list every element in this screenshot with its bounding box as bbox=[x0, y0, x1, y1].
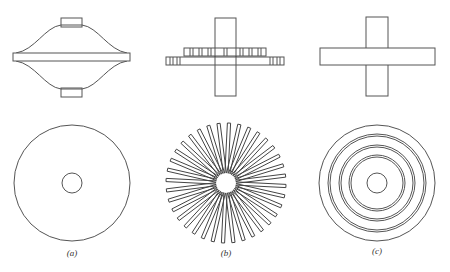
panel-a-hole bbox=[62, 173, 82, 193]
panel-c-top-view bbox=[319, 125, 435, 241]
panel-a-side-view bbox=[13, 18, 130, 97]
figure-canvas bbox=[0, 0, 450, 272]
panel-b-label: (b) bbox=[221, 248, 232, 258]
panel-a-disc-bar bbox=[13, 53, 130, 61]
panel-c-label: (c) bbox=[372, 246, 382, 256]
panel-c-hole bbox=[367, 173, 387, 193]
panel-b-side-view bbox=[166, 18, 284, 96]
panel-a-top-view bbox=[14, 125, 130, 241]
panel-a-top-cap bbox=[61, 18, 82, 27]
panel-c-outer-circle bbox=[319, 125, 435, 241]
panel-a-outer-circle bbox=[14, 125, 130, 241]
panel-c-side-view bbox=[320, 17, 435, 96]
panel-c-disc-bar bbox=[320, 48, 435, 65]
panel-b-hole bbox=[216, 173, 236, 193]
panel-a-label: (a) bbox=[67, 248, 78, 258]
panel-a-upper-profile bbox=[16, 25, 127, 53]
panel-b-top-view bbox=[166, 123, 286, 243]
panel-a-lower-profile bbox=[16, 61, 127, 89]
panel-b-upper-ring bbox=[184, 48, 266, 56]
panel-b-lower-ring bbox=[166, 57, 284, 65]
